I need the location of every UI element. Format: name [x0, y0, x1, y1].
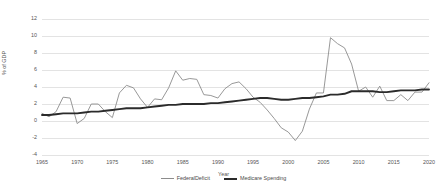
y-tick-label: 6	[15, 67, 37, 72]
x-tick-label: 2015	[379, 160, 409, 165]
x-tick-label: 1970	[62, 160, 92, 165]
x-tick-label: 2005	[308, 160, 338, 165]
legend-swatch-medicare-icon	[224, 178, 237, 180]
x-tick-label: 1995	[238, 160, 268, 165]
y-tick-label: 10	[15, 33, 37, 38]
x-tick-label: 1985	[168, 160, 198, 165]
x-tick-label: 2020	[414, 160, 444, 165]
legend-item-federaldeficit[interactable]: FederalDeficit	[161, 176, 210, 181]
x-tick-label: 1975	[97, 160, 127, 165]
y-tick-label: 2	[15, 101, 37, 106]
x-tick-label: 1990	[203, 160, 233, 165]
legend-label-federaldeficit: FederalDeficit	[177, 176, 210, 181]
legend-label-medicare-spending: Medicare Spending	[240, 176, 286, 181]
legend-swatch-deficit-icon	[161, 178, 174, 179]
x-tick-label: 2000	[273, 160, 303, 165]
line-chart: -4-2024681012196519701975198019851990199…	[0, 0, 447, 194]
x-tick-label: 2010	[344, 160, 374, 165]
legend-item-medicare-spending[interactable]: Medicare Spending	[224, 176, 286, 181]
y-tick-label: 12	[15, 16, 37, 21]
y-tick-label: -4	[15, 152, 37, 157]
y-tick-label: 8	[15, 50, 37, 55]
y-axis-title: % of GDP	[1, 51, 7, 75]
y-tick-label: 0	[15, 118, 37, 123]
y-tick-label: 4	[15, 84, 37, 89]
axis-tick-labels: -4-2024681012196519701975198019851990199…	[0, 0, 447, 194]
x-tick-label: 1980	[133, 160, 163, 165]
y-tick-label: -2	[15, 135, 37, 140]
x-tick-label: 1965	[27, 160, 57, 165]
chart-legend: FederalDeficit Medicare Spending	[0, 176, 447, 181]
